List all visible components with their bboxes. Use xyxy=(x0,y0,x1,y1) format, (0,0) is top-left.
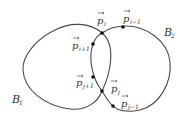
point-p-i-minus-1 xyxy=(121,25,125,29)
label-p-i-plus-1: p i+1 xyxy=(72,37,90,52)
svg-text:j−1: j−1 xyxy=(126,103,139,111)
diagram-svg: p i p i−1 p i+1 p j+1 p j p j−1 B 1 B 2 xyxy=(0,0,183,124)
label-p-j: p j xyxy=(111,80,120,96)
label-p-j-minus-1: p j−1 xyxy=(121,95,139,111)
label-p-i-minus-1: p i−1 xyxy=(123,10,141,25)
label-b2: B 2 xyxy=(163,26,175,39)
label-p-j-plus-1: p j+1 xyxy=(76,75,94,90)
point-p-j xyxy=(100,89,104,93)
svg-text:p: p xyxy=(76,77,83,88)
svg-text:j+1: j+1 xyxy=(81,82,94,90)
svg-text:p: p xyxy=(121,98,128,109)
svg-text:i+1: i+1 xyxy=(79,45,90,52)
svg-text:p: p xyxy=(97,15,104,26)
svg-text:p: p xyxy=(72,40,79,51)
svg-text:i: i xyxy=(104,20,106,27)
svg-text:1: 1 xyxy=(19,99,23,106)
region-b2-boundary xyxy=(91,26,170,111)
diagram-canvas: p i p i−1 p i+1 p j+1 p j p j−1 B 1 B 2 xyxy=(0,0,183,124)
point-p-i-plus-1 xyxy=(91,42,95,46)
label-p-i: p i xyxy=(97,12,106,27)
svg-text:2: 2 xyxy=(170,32,175,39)
point-p-j-minus-1 xyxy=(111,104,115,108)
svg-text:i−1: i−1 xyxy=(130,18,141,25)
svg-text:p: p xyxy=(123,13,130,24)
point-p-i xyxy=(100,31,104,35)
label-b1: B 1 xyxy=(11,93,23,106)
svg-text:p: p xyxy=(111,83,118,94)
point-p-j-plus-1 xyxy=(91,75,95,79)
